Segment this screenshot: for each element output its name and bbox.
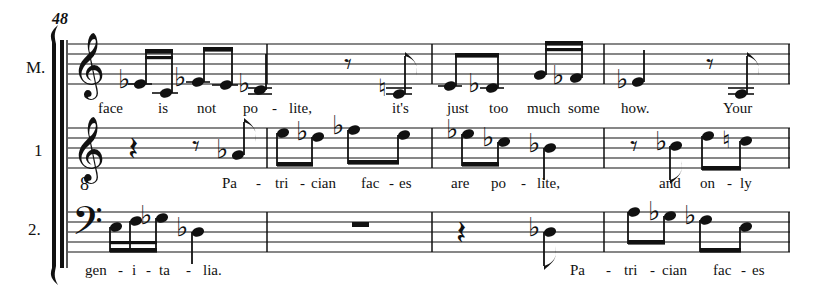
lyric-2-syllable: tri	[624, 262, 637, 279]
lyric-1-syllable: -	[300, 175, 305, 192]
score-sheet: 48 M. 1 2.	[0, 0, 820, 293]
svg-text:♭: ♭	[648, 196, 660, 226]
rehearsal-mark: 48	[52, 10, 68, 28]
staff-label-1: 1	[34, 141, 43, 161]
staff-2-notes: ♭ ♭ 𝄽 ♭ ♭ ♭	[109, 196, 754, 270]
lyric-m-syllable: face	[98, 100, 123, 117]
svg-text:𝄾: 𝄾	[630, 128, 638, 163]
svg-text:♭: ♭	[296, 116, 308, 146]
svg-text:♮: ♮	[378, 74, 387, 102]
lyric-2-syllable: cian	[662, 262, 687, 279]
bass-clef-staff-2: 𝄢	[72, 197, 103, 253]
lyric-2-syllable: fac	[713, 262, 731, 279]
lyric-1-syllable: po	[491, 175, 506, 192]
svg-text:♭: ♭	[140, 200, 152, 230]
treble-clef-staff-m: 𝄞	[72, 32, 105, 100]
lyric-1-syllable: -	[727, 175, 732, 192]
lyric-1-syllable: on	[700, 175, 715, 192]
svg-text:♭: ♭	[528, 128, 540, 158]
lyric-1-syllable: lite,	[537, 175, 560, 192]
svg-text:𝄾: 𝄾	[706, 46, 714, 81]
staff-label-2: 2.	[28, 220, 41, 240]
svg-text:♭: ♭	[552, 60, 564, 90]
svg-text:♭: ♭	[446, 114, 458, 144]
lyric-1-syllable: fac	[361, 175, 379, 192]
lyric-1-syllable: are	[451, 175, 469, 192]
lyric-1-syllable: -	[521, 175, 526, 192]
lyric-2-syllable: -	[741, 262, 746, 279]
lyric-m-syllable: -	[272, 100, 277, 117]
lyric-1-syllable: cian	[311, 175, 336, 192]
lyric-2-syllable: gen	[85, 262, 107, 279]
lyric-1-syllable: es	[399, 175, 412, 192]
lyric-2-syllable: -	[650, 262, 655, 279]
svg-text:♭: ♭	[174, 62, 186, 92]
lyric-2-syllable: lia.	[203, 262, 222, 279]
notation-canvas: 𝄞 𝄞 8 𝄢 ♭ ♭	[0, 0, 820, 293]
lyric-m-syllable: too	[489, 100, 508, 117]
svg-text:♮: ♮	[722, 126, 731, 154]
staff-label-m: M.	[26, 58, 45, 78]
staff-m-notes: ♭ ♭ ♭ 𝄾 ♮	[118, 41, 759, 102]
svg-text:8: 8	[80, 174, 89, 194]
svg-text:𝄾: 𝄾	[344, 46, 352, 81]
svg-text:𝄞: 𝄞	[72, 32, 105, 100]
svg-text:♭: ♭	[468, 68, 480, 98]
lyric-m-syllable: po	[243, 100, 258, 117]
lyric-2-syllable: -	[118, 262, 123, 279]
lyric-1-syllable: and	[659, 175, 681, 192]
svg-text:𝄽: 𝄽	[456, 212, 466, 252]
lyric-2-syllable: es	[752, 262, 765, 279]
treble-clef-8-staff-1: 𝄞 8	[72, 116, 105, 194]
lyric-2-syllable: -	[146, 262, 151, 279]
svg-text:𝄾: 𝄾	[192, 128, 200, 163]
lyric-m-syllable: Your	[723, 100, 752, 117]
svg-text:𝄽: 𝄽	[128, 128, 138, 168]
svg-text:♭: ♭	[616, 64, 628, 94]
lyric-m-syllable: much	[527, 100, 560, 117]
lyric-2-syllable: ta	[159, 262, 170, 279]
lyric-m-syllable: it's	[392, 100, 409, 117]
lyric-m-syllable: just	[447, 100, 469, 117]
svg-text:𝄢: 𝄢	[72, 197, 103, 253]
lyric-2-syllable: Pa	[570, 262, 585, 279]
lyric-2-syllable: -	[186, 262, 191, 279]
svg-text:♭: ♭	[655, 126, 667, 156]
svg-text:♭: ♭	[176, 212, 188, 242]
lyric-m-syllable: how.	[621, 100, 650, 117]
svg-text:♭: ♭	[216, 134, 228, 164]
lyric-m-syllable: some	[568, 100, 600, 117]
staff-1-lines	[68, 128, 790, 168]
lyric-1-syllable: -	[256, 175, 261, 192]
lyric-2-syllable: i	[132, 262, 136, 279]
lyric-m-syllable: is	[158, 100, 168, 117]
svg-text:♭: ♭	[684, 200, 696, 230]
lyric-1-syllable: -	[389, 175, 394, 192]
lyric-m-syllable: lite,	[289, 100, 312, 117]
lyric-1-syllable: Pa	[222, 175, 237, 192]
svg-text:♭: ♭	[332, 110, 344, 140]
lyric-1-syllable: ly	[740, 175, 752, 192]
lyric-1-syllable: tri	[275, 175, 288, 192]
svg-text:♭: ♭	[528, 212, 540, 242]
svg-text:♭: ♭	[482, 122, 494, 152]
svg-text:♭: ♭	[118, 64, 130, 94]
staff-1-notes: 𝄽 𝄾 ♭ ♭ ♭ ♭ ♭	[128, 110, 753, 184]
system-bracket	[51, 25, 67, 285]
lyric-m-syllable: not	[197, 100, 216, 117]
lyric-2-syllable: -	[606, 262, 611, 279]
